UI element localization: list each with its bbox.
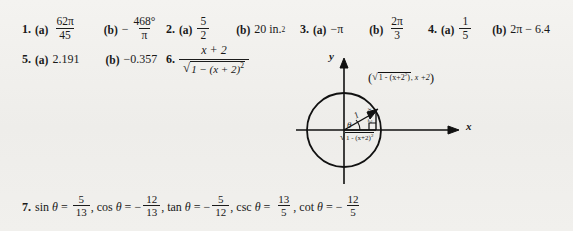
part-label-4b: (b): [492, 24, 506, 36]
fraction-numerator: 5: [197, 16, 209, 28]
radicand: 1 − (x + 2)2: [190, 61, 245, 75]
fraction-numerator: 5: [75, 194, 87, 205]
separator: ,: [91, 200, 94, 215]
part-label-1a: (a): [35, 24, 48, 36]
fraction-sin: 513: [73, 194, 90, 218]
fraction-denominator: 13: [143, 205, 160, 218]
radical-horizontal-leg: √1 - (x+2)2: [340, 132, 374, 142]
x-axis-arrowhead: [448, 126, 459, 134]
fraction-denominator: 45: [56, 28, 74, 42]
fraction-csc: 135: [275, 194, 292, 218]
trig-fn-cot: cot: [299, 200, 314, 215]
part-label-5b: (b): [105, 54, 119, 66]
exponent-2b: 2: [282, 25, 286, 34]
sign-cos: −: [134, 200, 141, 215]
fraction-numerator: 2π: [388, 16, 406, 28]
fraction-denominator: 5: [459, 28, 471, 42]
answer-entry-6: 6. x + 2 √ 1 − (x + 2)2: [166, 44, 249, 75]
answer-value-3a: −π: [330, 22, 343, 37]
part-label-4a: (a): [441, 24, 454, 36]
trig-fn-csc: csc: [236, 200, 251, 215]
fraction-denominator: 12: [212, 205, 229, 218]
point-coordinate-label: (√1 - (x+22), x +2): [368, 70, 434, 86]
answer-entry-1: 1. (a) 62π 45 (b) − 468° π: [22, 17, 159, 42]
paren-close-inner: ): [407, 73, 410, 82]
answer-value-5b: −0.357: [123, 52, 157, 67]
vertical-leg-label: x + 2: [366, 108, 374, 123]
fraction-1b: 468° π: [131, 16, 159, 41]
fraction-4a: 1 5: [459, 16, 471, 41]
paren-close: ): [430, 70, 434, 85]
expression-6: x + 2 √ 1 − (x + 2)2: [179, 44, 249, 75]
minus-sign-1b: −: [122, 22, 129, 37]
fraction-denominator: 5: [347, 205, 359, 218]
question-number-1: 1.: [22, 22, 31, 37]
question-number-6: 6.: [166, 52, 175, 67]
question-number-3: 3.: [300, 22, 309, 37]
answer-entry-4: 4. (a) 1 5 (b) 2π − 6.4: [428, 17, 550, 42]
fraction-denominator: 5: [278, 205, 290, 218]
radical-6: √ 1 − (x + 2)2: [183, 61, 245, 75]
fraction-cos: 1213: [143, 194, 160, 218]
question-number-2: 2.: [166, 22, 175, 37]
question-number-4: 4.: [428, 22, 437, 37]
fraction-cot: 125: [344, 194, 361, 218]
answer-value-5a: 2.191: [52, 52, 79, 67]
separator: ,: [230, 200, 233, 215]
angle-label: θ: [347, 120, 351, 130]
radicand: 1 - (x+2)2: [345, 132, 374, 142]
second-coordinate: x +2: [415, 73, 430, 82]
trig-var-cos: θ: [116, 200, 122, 215]
fraction-numerator: 12: [344, 194, 361, 205]
separator: ,: [293, 200, 296, 215]
radicand: 1 - (x+22): [378, 72, 411, 82]
answer-value-4b: 2π − 6.4: [510, 22, 550, 37]
trig-var-sin: θ: [52, 200, 58, 215]
fraction-numerator: 13: [275, 194, 292, 205]
sign-cot: −: [336, 200, 343, 215]
y-axis-label: y: [329, 50, 334, 62]
question-number-5: 5.: [22, 52, 31, 67]
fraction-numerator: 1: [459, 16, 471, 28]
part-label-3b: (b): [369, 24, 383, 36]
part-label-2a: (a): [179, 24, 192, 36]
part-label-5a: (a): [35, 54, 48, 66]
fraction-denominator: 2: [197, 28, 209, 42]
y-axis-arrowhead: [340, 58, 348, 68]
sign-tan: −: [204, 200, 211, 215]
answer-entry-7: 7. sin θ = 513, cos θ = −1213, tan θ = −…: [22, 195, 362, 219]
question-number-7: 7.: [22, 200, 31, 215]
fraction-2a: 5 2: [197, 16, 209, 41]
trig-fn-tan: tan: [167, 200, 182, 215]
fraction-denominator: 3: [391, 28, 403, 42]
horizontal-leg-label: √1 - (x+2)2: [340, 132, 374, 142]
unit-circle-figure: x y θ 1 x + 2 √1 - (x+2)2 (√1 - (x+22), …: [296, 58, 476, 184]
right-angle-marker: [369, 123, 376, 130]
radicand-exponent: 2: [240, 61, 244, 70]
radical-symbol: √: [183, 61, 190, 75]
x-axis-label: x: [466, 120, 472, 132]
fraction-denominator: 13: [73, 205, 90, 218]
part-label-1b: (b): [104, 24, 118, 36]
fraction-numerator: 5: [215, 194, 227, 205]
radicand-text: 1 - (x+2: [379, 73, 405, 82]
expression-numerator: x + 2: [195, 44, 232, 59]
fraction-numerator: 62π: [53, 16, 76, 28]
answer-key-page: 1. (a) 62π 45 (b) − 468° π 2. (a) 5 2 (b…: [0, 0, 573, 231]
answer-value-2b: 20 in.: [254, 22, 281, 37]
separator: ,: [161, 200, 164, 215]
fraction-tan: 512: [212, 194, 229, 218]
answer-entry-3: 3. (a) −π (b) 2π 3: [300, 17, 407, 42]
answer-entry-5: 5. (a) 2.191 (b) −0.357: [22, 52, 157, 67]
expression-denominator: √ 1 − (x + 2)2: [179, 60, 249, 75]
fraction-denominator: π: [139, 28, 151, 42]
part-label-2b: (b): [236, 24, 250, 36]
fraction-3b: 2π 3: [388, 16, 406, 41]
trig-var-csc: θ: [255, 200, 261, 215]
trig-var-cot: θ: [317, 200, 323, 215]
radicand-exponent: 2: [371, 133, 374, 138]
fraction-numerator: 12: [143, 194, 160, 205]
trig-var-tan: θ: [185, 200, 191, 215]
answer-entry-2: 2. (a) 5 2 (b) 20 in.2: [166, 17, 285, 42]
part-label-3a: (a): [313, 24, 326, 36]
